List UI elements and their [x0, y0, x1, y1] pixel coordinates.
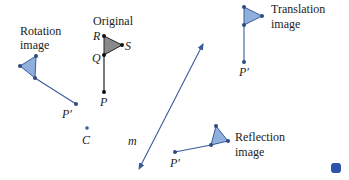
original-label: Original [93, 14, 134, 28]
reflection-label-line1: Reflection [235, 130, 285, 144]
label-P: P [99, 95, 108, 109]
reflection-image-figure [173, 124, 230, 154]
translation-image-figure [242, 5, 264, 64]
rotation-image-figure [18, 54, 78, 106]
translation-label-line1: Translation [271, 2, 325, 16]
label-P-prime-translation: P′ [238, 65, 249, 79]
label-P-prime-rotation: P′ [61, 107, 72, 121]
label-S: S [125, 39, 131, 53]
label-C: C [82, 133, 91, 147]
point-P-prime-reflection [173, 150, 177, 154]
reflection-label-line2: image [235, 145, 264, 159]
point-P [102, 90, 106, 94]
point-P-prime-translation [242, 60, 246, 64]
translation-label-line2: image [271, 17, 300, 31]
label-Q: Q [92, 51, 101, 65]
point-S [120, 43, 124, 47]
rotation-label-line1: Rotation [20, 24, 61, 38]
label-R: R [92, 29, 101, 43]
point-P-prime-rotation [74, 102, 78, 106]
rotation-label-line2: image [20, 38, 49, 52]
point-Q [102, 53, 106, 57]
transformations-diagram: Original R S Q P Rotation image P′ Trans… [0, 0, 349, 180]
point-R [102, 34, 106, 38]
corner-marker-icon[interactable] [331, 163, 341, 173]
original-figure [102, 34, 124, 94]
label-m: m [128, 134, 137, 148]
label-P-prime-reflection: P′ [169, 156, 180, 170]
point-C [85, 126, 89, 130]
